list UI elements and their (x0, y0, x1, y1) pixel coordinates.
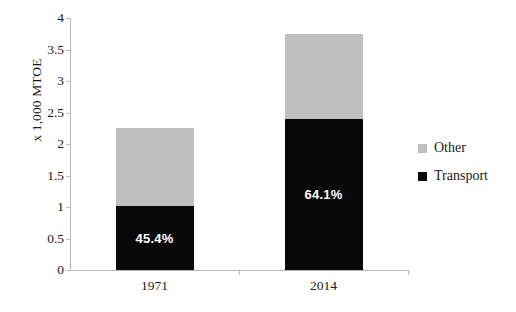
x-axis-label-1971: 1971 (116, 278, 194, 294)
legend-item-other: Other (418, 134, 514, 162)
x-axis-label-2014: 2014 (285, 278, 363, 294)
bar-2014[interactable]: 64.1% (285, 34, 363, 270)
stacked-bar-chart: x 1,000 MTOE 00.511.522.533.54 45.4%64.1… (0, 0, 516, 312)
y-axis-tick-0.5: 0.5 (47, 231, 64, 247)
legend-swatch-transport-icon (418, 172, 427, 181)
y-tick-mark (66, 81, 70, 82)
x-tick-mark (239, 270, 240, 275)
y-tick-mark (66, 207, 70, 208)
y-axis-tick-4: 4 (57, 10, 64, 26)
y-tick-mark (66, 18, 70, 19)
bar-segment-transport-1971[interactable]: 45.4% (116, 206, 194, 270)
bar-segment-transport-2014[interactable]: 64.1% (285, 119, 363, 270)
y-tick-mark (66, 239, 70, 240)
y-axis-tick-3: 3 (57, 73, 64, 89)
y-axis-tick-1.5: 1.5 (47, 168, 64, 184)
y-axis-line (70, 18, 71, 270)
y-tick-mark (66, 113, 70, 114)
legend-item-transport: Transport (418, 162, 514, 190)
y-axis-tick-2.5: 2.5 (47, 105, 64, 121)
y-axis-tick-2: 2 (57, 136, 64, 152)
y-tick-mark (66, 176, 70, 177)
chart-legend: Other Transport (418, 134, 514, 190)
y-tick-mark (66, 144, 70, 145)
legend-label-other: Other (434, 140, 466, 156)
y-tick-mark (66, 50, 70, 51)
bar-segment-other-2014[interactable] (285, 34, 363, 119)
y-axis-tick-3.5: 3.5 (47, 42, 64, 58)
legend-swatch-other-icon (418, 144, 427, 153)
y-axis-title: x 1,000 MTOE (29, 25, 45, 175)
bar-segment-other-1971[interactable] (116, 128, 194, 205)
legend-label-transport: Transport (434, 168, 488, 184)
y-axis-tick-1: 1 (57, 199, 64, 215)
x-tick-mark (408, 270, 409, 275)
data-label-1971: 45.4% (116, 231, 194, 246)
plot-area: 00.511.522.533.54 45.4%64.1% (70, 18, 408, 270)
y-tick-mark (66, 270, 70, 271)
y-axis-tick-0: 0 (57, 262, 64, 278)
bar-1971[interactable]: 45.4% (116, 128, 194, 270)
data-label-2014: 64.1% (285, 187, 363, 202)
